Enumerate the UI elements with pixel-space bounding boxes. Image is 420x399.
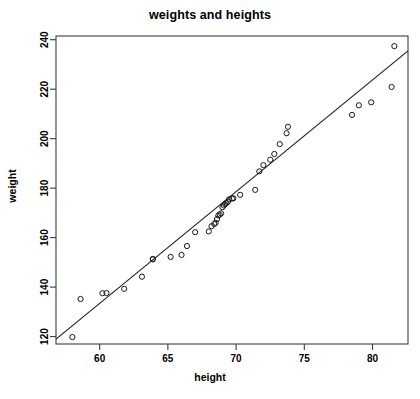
data-point	[122, 286, 127, 291]
x-axis-ticks: 6065707580	[94, 344, 378, 364]
data-point	[206, 229, 211, 234]
data-points	[70, 44, 397, 340]
y-tick-label: 220	[40, 80, 51, 97]
x-tick-label: 60	[94, 353, 106, 364]
data-point	[277, 142, 282, 147]
data-point	[179, 252, 184, 257]
y-tick-label: 240	[40, 31, 51, 48]
data-point	[78, 296, 83, 301]
data-point	[356, 103, 361, 108]
data-point	[389, 84, 394, 89]
y-axis-label: weight	[6, 156, 18, 216]
y-tick-label: 200	[40, 130, 51, 147]
data-point	[168, 254, 173, 259]
x-axis-label: height	[0, 371, 420, 383]
data-point	[349, 112, 354, 117]
y-tick-label: 180	[40, 179, 51, 196]
data-point	[184, 243, 189, 248]
x-tick-label: 80	[367, 353, 379, 364]
data-point	[261, 163, 266, 168]
y-tick-label: 160	[39, 229, 50, 246]
data-point	[284, 131, 289, 136]
data-point	[268, 157, 273, 162]
data-point	[272, 151, 277, 156]
data-point	[253, 187, 258, 192]
data-point	[70, 334, 75, 339]
data-point	[193, 230, 198, 235]
x-tick-label: 70	[231, 353, 243, 364]
regression-line	[56, 51, 408, 339]
plot-frame	[56, 36, 408, 344]
y-tick-label: 120	[40, 328, 51, 345]
x-tick-label: 75	[299, 353, 311, 364]
plot-canvas: 6065707580 120140160180200220240	[0, 0, 420, 399]
data-point	[369, 100, 374, 105]
scatter-plot-figure: weights and heights 6065707580 120140160…	[0, 0, 420, 399]
y-tick-label: 140	[40, 278, 51, 295]
data-point	[285, 124, 290, 129]
y-axis-ticks: 120140160180200220240	[39, 31, 56, 345]
data-point	[139, 274, 144, 279]
x-tick-label: 65	[162, 353, 174, 364]
data-point	[392, 44, 397, 49]
data-point	[238, 192, 243, 197]
